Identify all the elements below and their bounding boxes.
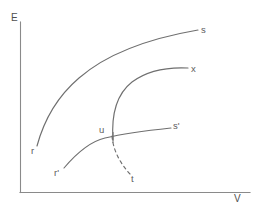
curve-label-s-prime: s' bbox=[173, 121, 180, 131]
curve-label-r-prime: r' bbox=[54, 168, 59, 178]
curve-label-x: x bbox=[191, 64, 196, 74]
point-label-u: u bbox=[99, 125, 104, 135]
thermodynamic-energy-volume-diagram: E V s x s' u r r' t bbox=[0, 0, 257, 213]
curves-group bbox=[37, 30, 198, 174]
diagram-canvas bbox=[0, 0, 257, 213]
curve-label-t: t bbox=[131, 174, 134, 184]
curve-u-to-t-dashed bbox=[112, 136, 130, 174]
y-axis-label: E bbox=[11, 13, 18, 23]
curve-label-r: r bbox=[31, 146, 34, 156]
x-axis-label: V bbox=[234, 194, 241, 204]
curve-rprime-to-sprime bbox=[64, 128, 171, 168]
curve-label-s: s bbox=[201, 25, 206, 35]
